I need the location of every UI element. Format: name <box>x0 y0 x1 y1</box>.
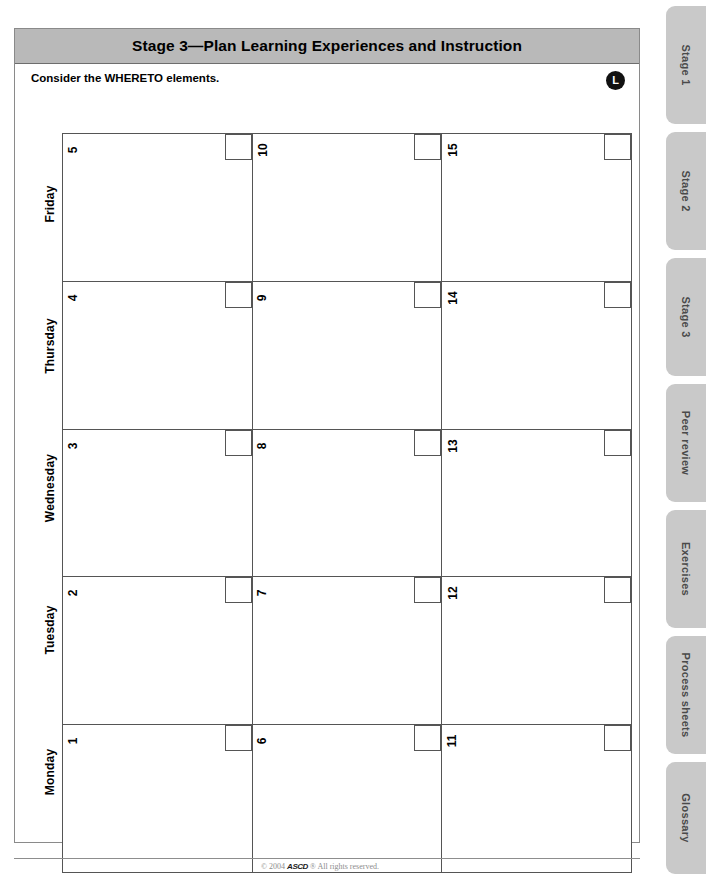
calendar-row: 3813 <box>63 430 632 578</box>
cell-number: 6 <box>254 728 272 754</box>
cell-number-text: 5 <box>67 147 79 154</box>
calendar-cell-13[interactable]: 13 <box>442 430 632 578</box>
calendar-cell-2[interactable]: 2 <box>63 577 253 725</box>
calendar-cell-1[interactable]: 1 <box>63 725 253 873</box>
calendar-cell-3[interactable]: 3 <box>63 430 253 578</box>
cell-number: 1 <box>64 728 82 754</box>
cell-number: 3 <box>64 433 82 459</box>
footer-copyright: © 2004 ASCD ® All rights reserved. <box>0 862 640 871</box>
cell-number-text: 9 <box>257 294 269 301</box>
cell-number: 14 <box>443 285 461 311</box>
cell-number-text: 1 <box>67 738 79 745</box>
cell-checkbox[interactable] <box>604 725 631 751</box>
day-label-text: Tuesday <box>43 605 57 654</box>
calendar-cell-15[interactable]: 15 <box>442 134 632 282</box>
cell-number: 11 <box>443 728 461 754</box>
cell-number: 9 <box>254 285 272 311</box>
calendar-cell-10[interactable]: 10 <box>253 134 443 282</box>
cell-checkbox[interactable] <box>604 430 631 456</box>
calendar-cell-5[interactable]: 5 <box>63 134 253 282</box>
day-label-text: Friday <box>43 185 57 222</box>
cell-checkbox[interactable] <box>225 282 252 308</box>
cell-checkbox[interactable] <box>414 725 441 751</box>
calendar-grid-wrapper: FridayThursdayWednesdayTuesdayMonday 510… <box>15 103 641 843</box>
cell-number-text: 2 <box>67 590 79 597</box>
prompt-instruction: Consider the WHERETO elements. <box>31 72 219 84</box>
day-label-text: Monday <box>43 749 57 796</box>
calendar-row: 2712 <box>63 577 632 725</box>
calendar-cell-12[interactable]: 12 <box>442 577 632 725</box>
tab-exercises[interactable]: Exercises <box>666 510 706 628</box>
cell-checkbox[interactable] <box>414 577 441 603</box>
tab-process-sheets[interactable]: Process sheets <box>666 636 706 754</box>
tab-label: Stage 3 <box>680 296 692 337</box>
calendar-cell-4[interactable]: 4 <box>63 282 253 430</box>
worksheet-panel: Stage 3—Plan Learning Experiences and In… <box>14 28 640 843</box>
cell-number-text: 12 <box>446 587 458 600</box>
cell-number-text: 13 <box>446 439 458 452</box>
tab-glossary[interactable]: Glossary <box>666 762 706 874</box>
cell-checkbox[interactable] <box>604 577 631 603</box>
cell-number: 4 <box>64 285 82 311</box>
day-label-text: Thursday <box>43 318 57 374</box>
tab-label: Stage 2 <box>680 170 692 211</box>
calendar-cell-7[interactable]: 7 <box>253 577 443 725</box>
tab-rail: Stage 1Stage 2Stage 3Peer reviewExercise… <box>660 0 706 876</box>
cell-checkbox[interactable] <box>225 725 252 751</box>
calendar-cell-8[interactable]: 8 <box>253 430 443 578</box>
cell-number-text: 8 <box>257 442 269 449</box>
tab-label: Peer review <box>680 411 692 475</box>
page-title: Stage 3—Plan Learning Experiences and In… <box>132 37 522 55</box>
tab-stage-2[interactable]: Stage 2 <box>666 132 706 250</box>
calendar-row: 51015 <box>63 134 632 282</box>
day-label-text: Wednesday <box>43 454 57 522</box>
status-badge: L <box>606 71 625 90</box>
worksheet-page: Stage 3—Plan Learning Experiences and In… <box>0 0 706 876</box>
cell-number-text: 14 <box>446 291 458 304</box>
cell-checkbox[interactable] <box>414 430 441 456</box>
cell-number: 2 <box>64 580 82 606</box>
cell-number-text: 3 <box>67 442 79 449</box>
cell-checkbox[interactable] <box>225 134 252 160</box>
footer-divider <box>14 858 640 859</box>
tab-stage-1[interactable]: Stage 1 <box>666 6 706 124</box>
calendar-row: 1611 <box>63 725 632 873</box>
cell-number: 13 <box>443 433 461 459</box>
tab-label: Glossary <box>680 793 692 842</box>
cell-checkbox[interactable] <box>604 282 631 308</box>
cell-number: 7 <box>254 580 272 606</box>
tab-label: Stage 1 <box>680 44 692 85</box>
cell-checkbox[interactable] <box>414 282 441 308</box>
calendar-cell-14[interactable]: 14 <box>442 282 632 430</box>
prompt-row: Consider the WHERETO elements. L <box>15 64 639 101</box>
cell-number: 8 <box>254 433 272 459</box>
calendar-grid: 510154914381327121611 <box>62 133 632 873</box>
calendar-cell-6[interactable]: 6 <box>253 725 443 873</box>
cell-checkbox[interactable] <box>414 134 441 160</box>
calendar-row: 4914 <box>63 282 632 430</box>
footer-copyright-suffix: ® All rights reserved. <box>310 862 379 871</box>
worksheet-title-bar: Stage 3—Plan Learning Experiences and In… <box>15 29 639 64</box>
tab-stage-3[interactable]: Stage 3 <box>666 258 706 376</box>
cell-checkbox[interactable] <box>225 430 252 456</box>
calendar-cell-9[interactable]: 9 <box>253 282 443 430</box>
cell-checkbox[interactable] <box>604 134 631 160</box>
cell-number-text: 4 <box>67 294 79 301</box>
publisher-logo: ASCD <box>287 862 308 871</box>
cell-number: 12 <box>443 580 461 606</box>
cell-number-text: 10 <box>257 143 269 156</box>
cell-checkbox[interactable] <box>225 577 252 603</box>
tab-peer-review[interactable]: Peer review <box>666 384 706 502</box>
tab-label: Process sheets <box>680 653 692 738</box>
cell-number-text: 11 <box>446 735 458 748</box>
tab-label: Exercises <box>680 542 692 596</box>
cell-number-text: 6 <box>257 738 269 745</box>
cell-number: 5 <box>64 137 82 163</box>
cell-number-text: 7 <box>257 590 269 597</box>
cell-number: 15 <box>443 137 461 163</box>
footer-copyright-prefix: © 2004 <box>261 862 285 871</box>
cell-number-text: 15 <box>446 143 458 156</box>
cell-number: 10 <box>254 137 272 163</box>
calendar-cell-11[interactable]: 11 <box>442 725 632 873</box>
